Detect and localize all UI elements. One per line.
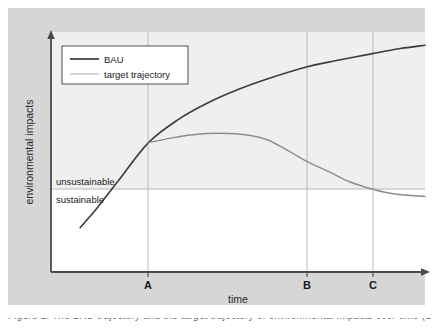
xtick-label-c: C xyxy=(369,279,377,291)
figure-caption-strip: Figure 1. The BAU trajectory and the tar… xyxy=(8,318,433,330)
x-axis-title: time xyxy=(228,293,248,305)
xtick-label-b: B xyxy=(303,279,311,291)
legend-label-bau: BAU xyxy=(104,54,124,65)
label-sustainable: sustainable xyxy=(56,194,104,205)
xtick-label-a: A xyxy=(144,279,152,291)
legend: BAU target trajectory xyxy=(62,46,188,84)
chart-svg: unsustainable sustainable A B C time env… xyxy=(0,0,445,332)
figure-container: unsustainable sustainable A B C time env… xyxy=(0,0,445,332)
label-unsustainable: unsustainable xyxy=(56,176,115,187)
figure-caption: Figure 1. The BAU trajectory and the tar… xyxy=(8,318,433,321)
y-axis-title: environmental impacts xyxy=(23,99,35,204)
x-axis-arrowhead xyxy=(421,268,430,276)
legend-label-target-trajectory: target trajectory xyxy=(104,69,170,80)
